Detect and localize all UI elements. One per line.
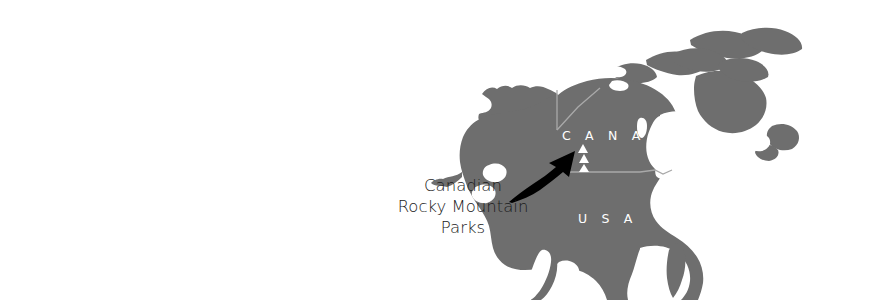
callout-line-1: Canadian (424, 176, 502, 195)
canada-label: C A N A D A (562, 128, 692, 143)
north-america-map: C A N A D A U S A Canadian Rocky Mountai… (0, 0, 876, 300)
locator-map-figure: C A N A D A U S A Canadian Rocky Mountai… (0, 0, 876, 300)
usa-label: U S A (578, 211, 638, 226)
callout-line-3: Parks (441, 218, 485, 237)
map-final (0, 0, 876, 300)
callout-line-2: Rocky Mountain (398, 197, 529, 216)
